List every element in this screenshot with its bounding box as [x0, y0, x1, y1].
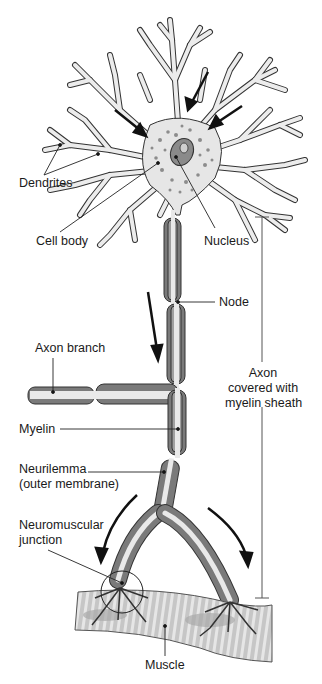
cell-body: [143, 118, 222, 215]
label-nmj-line2: junction: [19, 533, 104, 548]
label-neurilemma: Neurilemma (outer membrane): [19, 462, 119, 492]
label-dendrites: Dendrites: [19, 176, 73, 191]
label-cell-body: Cell body: [36, 234, 88, 249]
label-axon-sheath-line2: covered with: [225, 381, 301, 396]
nucleolus: [180, 143, 188, 153]
label-neurilemma-line2: (outer membrane): [19, 477, 119, 492]
label-axon-sheath-line3: myelin sheath: [225, 396, 301, 411]
label-axon-branch: Axon branch: [35, 341, 105, 356]
label-axon-sheath-line1: Axon: [225, 366, 301, 381]
label-nucleus: Nucleus: [204, 234, 249, 249]
label-neuromuscular-junction: Neuromuscular junction: [19, 518, 104, 548]
label-nmj-line1: Neuromuscular: [19, 518, 104, 533]
muscle-fiber: [75, 590, 272, 662]
label-myelin: Myelin: [19, 422, 55, 437]
label-neurilemma-line1: Neurilemma: [19, 462, 119, 477]
label-axon-sheath: Axon covered with myelin sheath: [225, 366, 301, 411]
label-node: Node: [219, 295, 249, 310]
label-muscle: Muscle: [145, 658, 185, 673]
